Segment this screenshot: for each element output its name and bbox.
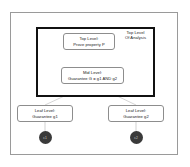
node-mid-level[interactable]: Mid Level: Guarantee G = g1 AND g2 bbox=[61, 67, 124, 84]
scope-label-line1: Top Level bbox=[127, 30, 145, 35]
node-leaf-level-g2[interactable]: Leaf Level: Guarantee g2 bbox=[108, 105, 164, 122]
node-leaf-level-g1-line2: Guarantee g1 bbox=[32, 114, 58, 120]
terminal-node-c2[interactable]: c2 bbox=[130, 131, 143, 144]
terminal-node-c2-label: c2 bbox=[134, 136, 138, 140]
scope-label-line2: Of Analysis bbox=[117, 35, 154, 40]
scope-label: Top Level Of Analysis bbox=[117, 30, 154, 41]
diagram-canvas: Top Level Of Analysis Top Level: Prove p… bbox=[0, 0, 190, 167]
node-mid-level-line2: Guarantee G = g1 AND g2 bbox=[68, 76, 117, 82]
terminal-node-c1[interactable]: c1 bbox=[39, 131, 52, 144]
node-top-level[interactable]: Top Level: Prove property P bbox=[63, 33, 115, 50]
node-leaf-level-g1[interactable]: Leaf Level: Guarantee g1 bbox=[17, 105, 73, 122]
node-leaf-level-g2-line2: Guarantee g2 bbox=[123, 114, 149, 120]
node-top-level-line2: Prove property P bbox=[73, 42, 104, 48]
terminal-node-c1-label: c1 bbox=[43, 136, 47, 140]
